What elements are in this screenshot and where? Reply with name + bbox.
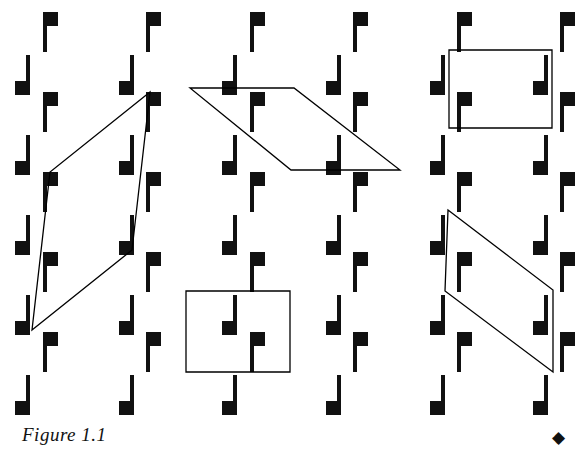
flag-lattice-illustration [0,0,577,467]
filled-diamond-icon: ◆ [552,428,565,447]
caption-bar: Figure 1.1 ◆ [0,424,577,467]
figure-caption: Figure 1.1 [22,424,107,446]
figure-1-1-container: Figure 1.1 ◆ [0,0,577,467]
figure-background [0,0,577,467]
